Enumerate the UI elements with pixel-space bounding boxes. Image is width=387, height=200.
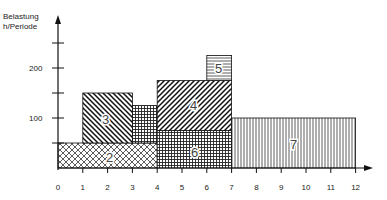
x-tick-label: 11 — [327, 183, 336, 192]
block-label-7: 7 — [290, 137, 297, 152]
block-label-2: 2 — [106, 150, 113, 165]
y-tick-label-200: 200 — [29, 64, 43, 73]
x-tick-label: 4 — [155, 183, 160, 192]
x-tick-label: 10 — [302, 183, 311, 192]
y-axis-title-line2: h/Periode — [3, 22, 38, 31]
x-tick-label: 1 — [81, 183, 86, 192]
x-tick-label: 6 — [205, 183, 210, 192]
block-grid-small — [132, 106, 157, 144]
x-tick-label: 12 — [351, 183, 360, 192]
x-axis-arrow-icon — [364, 165, 373, 171]
x-tick-label: 8 — [254, 183, 259, 192]
block-label-3: 3 — [102, 112, 109, 127]
y-axis-arrow-icon — [55, 15, 61, 24]
block-label-5: 5 — [215, 61, 222, 76]
block-label-6: 6 — [191, 145, 198, 160]
x-tick-label: 3 — [130, 183, 135, 192]
x-tick-label: 5 — [180, 183, 185, 192]
x-ticks — [83, 168, 356, 173]
x-tick-label: 0 — [56, 183, 61, 192]
block-label-4: 4 — [190, 98, 197, 113]
x-tick-label: 7 — [229, 183, 234, 192]
y-tick-label-100: 100 — [29, 114, 43, 123]
x-tick-label: 2 — [105, 183, 110, 192]
load-chart: Belastung h/Periode 2 3 4 5 6 7 100 200 — [0, 0, 387, 200]
x-tick-label: 9 — [279, 183, 284, 192]
x-tick-labels: 0 1 2 3 4 5 6 7 8 9 10 11 12 — [56, 183, 361, 192]
y-axis-title-line1: Belastung — [3, 12, 39, 21]
